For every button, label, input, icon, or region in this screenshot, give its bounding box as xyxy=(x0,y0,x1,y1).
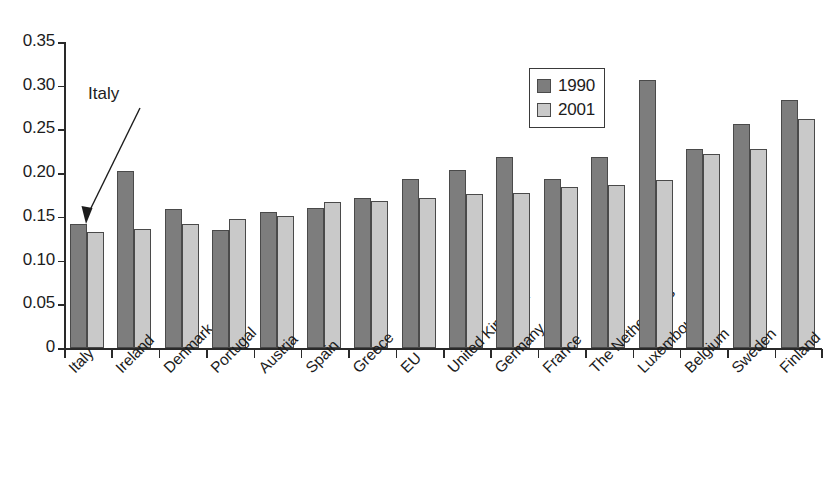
y-tick-mark xyxy=(58,261,64,263)
bar-the-netherlands-1990 xyxy=(591,157,608,348)
x-tick-mark xyxy=(159,349,161,358)
bar-eu-1990 xyxy=(402,179,419,348)
bar-ireland-1990 xyxy=(117,171,134,348)
bar-spain-2001 xyxy=(324,202,341,348)
y-tick-mark xyxy=(58,217,64,219)
bar-austria-1990 xyxy=(260,212,277,348)
x-tick-mark xyxy=(396,349,398,358)
bar-finland-1990 xyxy=(781,100,798,348)
y-tick-label: 0.30 xyxy=(23,75,55,95)
bar-france-1990 xyxy=(544,179,561,348)
y-tick-mark xyxy=(58,42,64,44)
x-tick-label-eu: EU xyxy=(397,349,425,377)
y-tick-label: 0.25 xyxy=(23,118,55,138)
bar-eu-2001 xyxy=(419,198,436,348)
bar-the-netherlands-2001 xyxy=(608,185,625,348)
bar-germany-1990 xyxy=(496,157,513,348)
x-tick-mark xyxy=(301,349,303,358)
x-tick-mark xyxy=(64,349,66,358)
bar-sweden-1990 xyxy=(733,124,750,348)
bar-luxembourg-1990 xyxy=(639,80,656,348)
y-tick-mark xyxy=(58,173,64,175)
legend-swatch-2001-icon xyxy=(537,103,551,117)
y-tick-label: 0.15 xyxy=(23,206,55,226)
y-tick-label: 0.35 xyxy=(23,31,55,51)
bar-chart-figure: 0.350.300.250.200.150.100.050ItalyIrelan… xyxy=(0,0,838,499)
x-tick-mark xyxy=(538,349,540,358)
y-tick-mark xyxy=(58,304,64,306)
bar-luxembourg-2001 xyxy=(656,180,673,348)
y-axis-line xyxy=(64,42,66,349)
y-tick-mark xyxy=(58,129,64,131)
legend-item-1990: 1990 xyxy=(537,74,595,98)
bar-germany-2001 xyxy=(513,193,530,348)
bar-austria-2001 xyxy=(277,216,294,348)
x-tick-mark xyxy=(206,349,208,358)
bar-italy-1990 xyxy=(70,224,87,348)
bar-denmark-1990 xyxy=(165,209,182,348)
legend-label-1990: 1990 xyxy=(558,76,595,96)
bar-finland-2001 xyxy=(798,119,815,348)
y-tick-label: 0 xyxy=(46,337,55,357)
x-tick-mark xyxy=(633,349,635,358)
bar-united-kingdom-1990 xyxy=(449,170,466,348)
bar-united-kingdom-2001 xyxy=(466,194,483,348)
y-tick-label: 0.10 xyxy=(23,250,55,270)
x-tick-mark xyxy=(680,349,682,358)
bar-sweden-2001 xyxy=(750,149,767,348)
x-tick-mark xyxy=(111,349,113,358)
x-tick-mark xyxy=(821,349,823,358)
y-tick-label: 0.05 xyxy=(23,293,55,313)
bar-belgium-2001 xyxy=(703,154,720,348)
x-tick-mark xyxy=(775,349,777,358)
x-tick-mark xyxy=(585,349,587,358)
bar-france-2001 xyxy=(561,187,578,348)
legend-label-2001: 2001 xyxy=(558,100,595,120)
legend-item-2001: 2001 xyxy=(537,98,595,122)
x-tick-mark xyxy=(254,349,256,358)
bar-ireland-2001 xyxy=(134,229,151,348)
y-tick-mark xyxy=(58,86,64,88)
y-tick-label: 0.20 xyxy=(23,162,55,182)
bar-spain-1990 xyxy=(307,208,324,348)
x-tick-mark xyxy=(727,349,729,358)
bar-portugal-1990 xyxy=(212,230,229,348)
legend-swatch-1990-icon xyxy=(537,79,551,93)
chart-legend: 1990 2001 xyxy=(529,68,605,128)
x-tick-mark xyxy=(443,349,445,358)
x-tick-mark xyxy=(490,349,492,358)
bar-italy-2001 xyxy=(87,232,104,348)
bar-greece-2001 xyxy=(371,201,388,348)
x-tick-mark xyxy=(348,349,350,358)
bar-belgium-1990 xyxy=(686,149,703,348)
bar-greece-1990 xyxy=(354,198,371,348)
annotation-label-italy: Italy xyxy=(88,84,119,104)
